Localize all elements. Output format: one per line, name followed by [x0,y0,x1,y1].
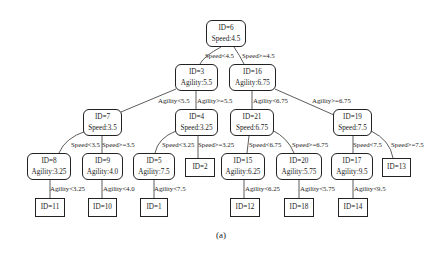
edge-label: Agility>=5.5 [197,97,232,105]
node-id: ID=8 [28,156,70,167]
node-id: ID=2 [192,162,207,173]
node-id: ID=18 [290,202,309,213]
tree-node-16: ID=16 Agility:6.75 [229,64,276,91]
edge-label: Speed>=3.5 [102,141,135,149]
node-split: Agility:6.25 [222,167,264,178]
node-id: ID=4 [176,112,217,123]
node-id: ID=5 [134,156,174,167]
edge-label: Agility<6.75 [253,97,288,105]
tree-node-6: ID=6 Speed:4.5 [206,20,246,47]
edge-label: Agility<5.75 [300,185,335,193]
node-split: Agility:4.0 [83,167,122,178]
edge-label: Agility<5.5 [158,97,190,105]
edge-label: Agility<3.25 [50,185,85,193]
node-id: ID=21 [231,112,273,123]
edge-label: Speed<3.25 [162,141,194,149]
leaf-node-2: ID=2 [185,158,215,177]
node-split: Agility:7.5 [134,167,174,178]
leaf-node-12: ID=12 [230,198,260,217]
node-id: ID=14 [344,202,363,213]
leaf-node-11: ID=11 [35,198,65,217]
edge-label: Agility<7.5 [154,185,186,193]
edge-label: Speed<4.5 [205,52,234,60]
node-split: Speed:4.5 [207,34,245,45]
decision-tree-diagram: ID=6 Speed:4.5 ID=3 Agility:5.5 ID=16 Ag… [0,0,447,263]
node-split: Agility:9.5 [332,167,372,178]
tree-node-5: ID=5 Agility:7.5 [133,153,175,180]
node-id: ID=9 [83,156,122,167]
node-split: Speed:3.25 [176,123,217,134]
tree-node-3: ID=3 Agility:5.5 [175,64,218,91]
edge-label: Speed>=4.5 [242,52,275,60]
node-split: Speed:6.75 [231,123,273,134]
leaf-node-1: ID=1 [140,198,168,217]
tree-node-17: ID=17 Agility:9.5 [331,153,373,180]
node-split: Agility:5.75 [277,167,321,178]
edge-label: Speed>=6.75 [292,141,328,149]
node-id: ID=17 [332,156,372,167]
node-id: ID=12 [236,202,255,213]
node-split: Agility:6.75 [230,78,275,89]
node-id: ID=20 [277,156,321,167]
tree-node-15: ID=15 Agility:6.25 [221,153,265,180]
edge-label: Agility<4.0 [103,185,135,193]
node-split: Agility:3.25 [28,167,70,178]
tree-node-20: ID=20 Agility:5.75 [276,153,322,180]
node-id: ID=13 [387,162,406,173]
node-id: ID=7 [84,112,121,123]
leaf-node-10: ID=10 [88,198,117,217]
node-id: ID=19 [334,112,371,123]
edge-label: Speed<3.5 [71,141,100,149]
node-id: ID=1 [146,202,161,213]
tree-node-4: ID=4 Speed:3.25 [175,109,218,136]
edge-label: Speed>=7.5 [391,141,424,149]
edge-label: Agility>=6.75 [312,97,351,105]
leaf-node-14: ID=14 [338,198,368,217]
node-split: Agility:5.5 [176,78,217,89]
node-id: ID=3 [176,67,217,78]
tree-node-7: ID=7 Speed:3.5 [83,109,122,136]
edge-label: Speed<6.75 [249,141,281,149]
tree-node-8: ID=8 Agility:3.25 [27,153,71,180]
node-id: ID=11 [41,202,60,213]
node-split: Speed:7.5 [334,123,371,134]
leaf-node-18: ID=18 [284,198,314,217]
node-id: ID=15 [222,156,264,167]
tree-node-19: ID=19 Speed:7.5 [333,109,372,136]
tree-node-21: ID=21 Speed:6.75 [230,109,274,136]
edge-label: Speed<7.5 [353,141,382,149]
edge-label: Agility<9.5 [354,185,386,193]
node-id: ID=16 [230,67,275,78]
edge-label: Agility<6.25 [245,185,280,193]
figure-caption: (a) [216,230,226,240]
node-split: Speed:3.5 [84,123,121,134]
tree-node-9: ID=9 Agility:4.0 [82,153,123,180]
node-id: ID=6 [207,23,245,34]
node-id: ID=10 [93,202,112,213]
edge-label: Speed>=3.25 [198,141,234,149]
leaf-node-13: ID=13 [382,158,411,177]
